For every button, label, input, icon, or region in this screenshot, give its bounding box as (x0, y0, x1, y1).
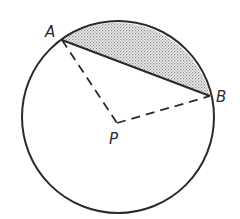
radius-pb (117, 96, 210, 123)
circle-diagram: A B P (0, 0, 240, 219)
shaded-segment (62, 23, 210, 96)
diagram-canvas: A B P (0, 0, 240, 219)
label-b: B (216, 88, 226, 106)
label-p: P (109, 130, 119, 148)
label-a: A (44, 23, 55, 41)
